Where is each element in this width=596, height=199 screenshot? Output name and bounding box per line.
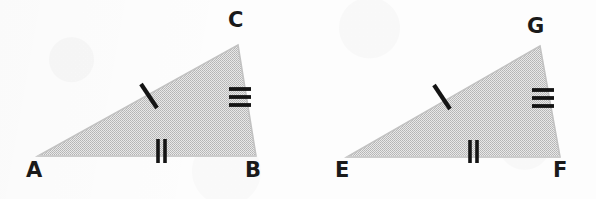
vertex-label-b: B xyxy=(245,160,261,181)
vertex-label-f: F xyxy=(553,160,567,181)
vertex-label-g: G xyxy=(527,16,544,37)
triangle-efg-shape xyxy=(347,46,560,157)
geometry-figure: A C B E G F xyxy=(0,0,596,199)
triangles-canvas xyxy=(0,0,596,199)
vertex-label-c: C xyxy=(228,10,243,31)
vertex-label-e: E xyxy=(335,160,349,181)
triangle-abc-shape xyxy=(38,45,256,156)
vertex-label-a: A xyxy=(26,160,42,181)
